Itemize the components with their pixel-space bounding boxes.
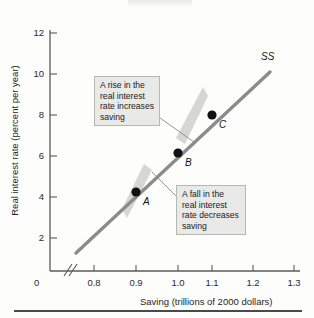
annotation-rise-line-3: rate increases — [100, 101, 155, 112]
data-point-c — [207, 110, 216, 119]
annotation-fall-line-1: A fall in the — [182, 189, 241, 200]
axis-break-mark — [64, 264, 77, 276]
annotation-fall-line-4: saving — [182, 221, 241, 232]
y-tick-label-2: 2 — [22, 232, 44, 243]
annotation-rise: A rise in the real interest rate increas… — [94, 76, 160, 126]
saving-supply-figure: 12 10 8 6 4 2 0 0.8 0.9 1.0 1.1 1.2 1.3 … — [0, 0, 314, 318]
y-tick-label-4: 4 — [22, 191, 44, 202]
annotation-fall-line-2: real interest — [182, 200, 241, 211]
x-tick-label-0-8: 0.8 — [81, 277, 107, 288]
y-axis-title: Real interest rate (percent per year) — [9, 61, 20, 221]
data-point-label-a: A — [143, 196, 150, 207]
y-tick-label-6: 6 — [22, 150, 44, 161]
x-tick-label-1-3: 1.3 — [281, 277, 307, 288]
annotation-rise-line-1: A rise in the — [100, 80, 155, 91]
data-point-b — [173, 148, 182, 157]
x-axis-title: Saving (trillions of 2000 dollars) — [140, 296, 273, 307]
y-tick-label-8: 8 — [22, 109, 44, 120]
annotation-rise-line-2: real interest — [100, 91, 155, 102]
x-axis-ticks — [94, 265, 294, 271]
leader-line-fall — [152, 172, 176, 196]
x-tick-label-1-1: 1.1 — [199, 277, 225, 288]
bottom-divider — [14, 310, 302, 312]
y-tick-label-10: 10 — [22, 68, 44, 79]
annotation-fall: A fall in the real interest rate decreas… — [176, 185, 246, 235]
y-tick-label-12: 12 — [22, 27, 44, 38]
x-tick-label-0-9: 0.9 — [123, 277, 149, 288]
annotation-fall-line-3: rate decreases — [182, 210, 241, 221]
x-tick-label-1-0: 1.0 — [165, 277, 191, 288]
data-point-label-b: B — [185, 157, 192, 168]
data-point-label-c: C — [219, 119, 226, 130]
plot-canvas — [0, 0, 314, 318]
x-tick-label-1-2: 1.2 — [240, 277, 266, 288]
annotation-rise-line-4: saving — [100, 112, 155, 123]
ss-curve-label: SS — [261, 51, 274, 62]
y-axis-ticks — [50, 33, 57, 238]
origin-label: 0 — [34, 277, 39, 288]
data-point-a — [131, 187, 140, 196]
